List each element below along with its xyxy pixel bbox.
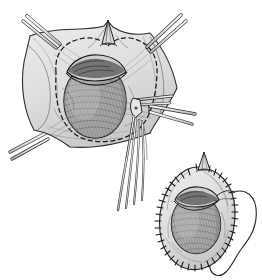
surgical-illustration bbox=[0, 0, 262, 280]
illustration-canvas bbox=[0, 0, 262, 280]
